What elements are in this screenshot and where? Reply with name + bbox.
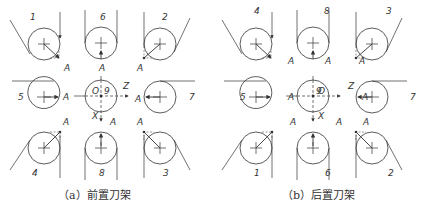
point-a-label: A <box>109 117 116 127</box>
point-a-label: A <box>358 56 365 66</box>
point-a-label: A <box>134 94 141 104</box>
code-bot-left: 1 <box>254 168 260 178</box>
code-center: 9 <box>104 86 110 96</box>
code-bot-mid: 8 <box>99 168 105 178</box>
point-a-label: A <box>63 63 70 73</box>
axis-x-label: X <box>317 111 325 121</box>
code-bot-right: 2 <box>388 168 394 178</box>
origin-label: O <box>318 86 325 96</box>
code-top-left: 4 <box>254 6 260 16</box>
axis-z-label: Z <box>122 81 130 91</box>
point-a-label: A <box>62 117 69 127</box>
code-mid-left: 5 <box>18 92 24 102</box>
point-a-label: A <box>136 117 143 127</box>
code-bot-right: 3 <box>163 168 169 178</box>
caption-front-tool-post: （a）前置刀架 <box>58 186 131 202</box>
panel-b: 4 8 3 5 9 7 1 6 2 A A A A A A A A O Z X <box>222 6 416 180</box>
axis-x-label: X <box>91 111 99 121</box>
code-mid-left: 5 <box>240 92 246 102</box>
code-bot-left: 4 <box>32 168 38 178</box>
point-a-label: A <box>324 56 331 66</box>
point-a-label: A <box>98 63 105 73</box>
point-a-label: A <box>136 63 143 73</box>
point-a-label: A <box>289 117 296 127</box>
code-bot-mid: 6 <box>325 168 331 178</box>
origin-label: O <box>92 86 99 96</box>
point-a-label: A <box>335 117 342 127</box>
code-mid-right: 7 <box>189 92 195 102</box>
point-a-label: A <box>62 92 69 102</box>
panel-a: 1 6 2 5 9 7 4 8 3 A A A A A A A A O Z X <box>10 10 195 180</box>
code-top-left: 1 <box>30 12 36 22</box>
code-top-mid: 8 <box>324 6 330 16</box>
axis-z-label: Z <box>347 81 355 91</box>
point-a-label: A <box>361 92 368 102</box>
tool-nose-direction-diagram: 1 6 2 5 9 7 4 8 3 A A A A A A A A O Z X … <box>0 0 425 207</box>
point-a-label: A <box>362 117 369 127</box>
caption-rear-tool-post: （b）后置刀架 <box>282 186 355 202</box>
code-top-mid: 6 <box>100 12 106 22</box>
point-a-label: A <box>287 92 294 102</box>
code-mid-right: 7 <box>410 92 416 102</box>
code-top-right: 3 <box>386 6 392 16</box>
code-top-right: 2 <box>162 12 168 22</box>
point-a-label: A <box>287 56 294 66</box>
